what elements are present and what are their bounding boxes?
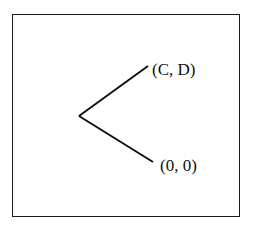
lower-payoff-label: (0, 0) bbox=[160, 156, 197, 175]
upper-payoff-label: (C, D) bbox=[152, 60, 195, 79]
game-tree: (C, D) (0, 0) bbox=[0, 0, 254, 229]
upper-branch bbox=[79, 66, 148, 116]
lower-branch bbox=[79, 116, 153, 162]
